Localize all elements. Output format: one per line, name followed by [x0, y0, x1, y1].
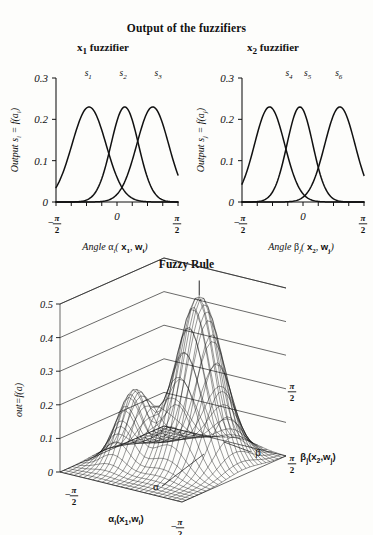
x1-y-axis-ticks: 00.10.20.3	[34, 72, 56, 208]
fuzzifier-curve-s4	[242, 107, 364, 202]
pi-fraction-label: π2	[359, 213, 367, 235]
svg-text:s5: s5	[304, 68, 312, 81]
mesh-line-u	[126, 327, 230, 488]
svg-text:s1: s1	[85, 68, 92, 81]
svg-text:2: 2	[290, 465, 295, 475]
y-tick-label: 0.3	[34, 72, 48, 84]
beta-leader-line	[224, 442, 251, 452]
svg-text:π: π	[72, 485, 78, 495]
svg-text:π: π	[241, 213, 247, 223]
x2-y-axis-ticks: 00.10.20.3	[220, 72, 242, 208]
z-tick-label: 0.4	[40, 333, 54, 344]
pi-fraction-label: –π2	[234, 213, 248, 235]
y-tick-label: 0.1	[220, 155, 234, 167]
subtitle-x1-text: x1 fuzzifier	[77, 41, 129, 53]
svg-text:Output sj = f(aj): Output sj = f(aj)	[195, 107, 209, 172]
y-axis-title: Output si = f(ai)	[9, 107, 23, 172]
mesh-line-u	[121, 352, 225, 487]
y-tick-label: 0	[43, 196, 49, 208]
z-tick-label: 0.1	[40, 433, 53, 444]
svg-text:2: 2	[361, 225, 366, 235]
z-axis-title: out=f(a)	[13, 382, 25, 417]
y-tick-label: 0.3	[220, 72, 234, 84]
svg-text:2: 2	[178, 529, 183, 535]
x-axis-title: Angle βj( x2, wj)	[267, 241, 334, 255]
pi-fraction-label: –π2	[171, 517, 185, 535]
svg-text:s2: s2	[120, 68, 128, 81]
mesh-line-u	[140, 298, 244, 491]
x1-x-axis-label: Angle αi( x1, wi)	[81, 241, 148, 255]
mesh-line-u	[83, 407, 187, 478]
z-tick-label: 0.3	[40, 366, 53, 377]
z-gridline	[60, 359, 286, 405]
svg-text:s4: s4	[285, 68, 293, 81]
pi-fraction-label: –π2	[65, 485, 79, 507]
svg-text:π: π	[178, 517, 184, 527]
svg-text:–: –	[48, 216, 54, 226]
svg-text:π: π	[290, 453, 296, 463]
chart-x1-fuzzifier: s1s2s3 00.10.20.3 –π20π2 Output si = f(a…	[2, 62, 186, 252]
mesh-line-v	[144, 386, 266, 463]
series-label-s5: s5	[304, 68, 312, 81]
alpha-axis-title: αi(x1,wi)	[108, 513, 143, 526]
svg-text:out=f(a): out=f(a)	[13, 382, 25, 417]
y-tick-label: 0.1	[34, 155, 48, 167]
svg-text:2: 2	[72, 497, 77, 507]
svg-text:s6: s6	[335, 68, 343, 81]
x-tick-label-zero: 0	[114, 210, 120, 222]
page-title: Output of the fuzzifiers	[0, 22, 373, 34]
x1-y-axis-label: Output si = f(ai)	[9, 107, 23, 172]
mesh-line-u	[159, 391, 263, 496]
x-tick-label-zero: 0	[300, 210, 306, 222]
mesh-line-u	[74, 429, 178, 475]
x2-y-axis-label: Output sj = f(aj)	[195, 107, 209, 172]
svg-text:2: 2	[175, 225, 180, 235]
svg-text:2: 2	[241, 225, 246, 235]
figure-root: Output of the fuzzifiers x1 fuzzifier x2…	[0, 0, 373, 535]
subtitle-x2-fuzzifier: x2 fuzzifier	[198, 41, 348, 56]
svg-text:s3: s3	[155, 68, 163, 81]
subtitle-x2-text: x2 fuzzifier	[247, 41, 299, 53]
x1-fuzzifier-svg: s1s2s3 00.10.20.3 –π20π2 Output si = f(a…	[2, 62, 186, 252]
svg-text:π: π	[55, 213, 61, 223]
mesh-line-v	[120, 298, 242, 470]
z-gridline	[60, 292, 286, 338]
fuzzy-rule-title: Fuzzy Rule	[0, 258, 373, 270]
series-label-s1: s1	[85, 68, 92, 81]
surface-z-ticks: 00.10.20.30.40.5	[40, 258, 286, 478]
pi-fraction-label: –π2	[48, 213, 62, 235]
alpha-leader-line	[162, 454, 204, 486]
alpha-axis-letter: α	[153, 480, 159, 492]
pi-fraction-label: π2	[173, 213, 181, 235]
svg-text:π: π	[175, 213, 181, 223]
pi-fraction-label: π2	[288, 453, 296, 475]
svg-text:–: –	[171, 520, 177, 530]
mesh-line-u	[102, 400, 206, 483]
svg-text:π: π	[361, 213, 367, 223]
surface-frame	[60, 258, 286, 502]
svg-text:2: 2	[290, 393, 295, 403]
svg-text:–: –	[65, 488, 71, 498]
z-tick-label: 0	[48, 467, 54, 478]
y-tick-label: 0	[229, 196, 235, 208]
y-tick-label: 0.2	[34, 113, 48, 125]
y-tick-label: 0.2	[220, 113, 234, 125]
series-label-s2: s2	[120, 68, 128, 81]
mesh-line-u	[69, 428, 173, 474]
series-label-s6: s6	[335, 68, 343, 81]
x2-fuzzifier-svg: s4s5s6 00.10.20.3 –π20π2 Output sj = f(a…	[188, 62, 372, 252]
x1-series-labels: s1s2s3	[85, 68, 163, 81]
x1-curves	[56, 107, 178, 202]
mesh-line-v	[136, 342, 258, 465]
beta-axis-title: βj(x2,wj)	[300, 451, 335, 465]
x2-curves	[242, 107, 364, 202]
svg-text:2: 2	[55, 225, 60, 235]
z-tick-label: 0.2	[40, 400, 54, 411]
chart-fuzzy-rule-surface: 00.10.20.30.40.5 out=f(a)–π2–π2π2π2αβαi(…	[8, 276, 368, 526]
z-gridline	[60, 325, 286, 371]
x-axis-title: Angle αi( x1, wi)	[81, 241, 148, 255]
series-label-s4: s4	[285, 68, 293, 81]
x1-x-axis-ticks: –π20π2	[48, 202, 182, 235]
y-axis-title: Output sj = f(aj)	[195, 107, 209, 172]
mesh-line-v	[72, 467, 194, 497]
